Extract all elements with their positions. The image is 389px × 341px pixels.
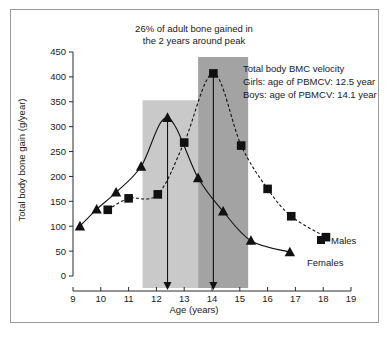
y-tick-label: 0 — [61, 270, 66, 281]
y-tick-label: 350 — [50, 96, 66, 107]
data-point-males — [103, 205, 112, 214]
x-tick-label: 9 — [70, 293, 75, 304]
x-tick-label: 11 — [124, 293, 134, 304]
males-series-label: Males — [331, 235, 357, 246]
annotation-line-2: Girls: age of PBMCV: 12.5 year — [243, 76, 375, 87]
girls-peak-band — [143, 100, 199, 288]
x-tick-label: 19 — [346, 293, 357, 304]
annotation-line-3: Boys: age of PBMCV: 14.1 year — [243, 89, 377, 100]
data-point-males — [263, 185, 272, 194]
boys-peak-band — [198, 57, 248, 288]
data-point-males — [124, 194, 133, 203]
data-point-males — [153, 190, 162, 199]
chart-title-line-1: 26% of adult bone gained in — [135, 23, 253, 34]
x-tick-label: 15 — [235, 293, 246, 304]
annotation-line-1: Total body BMC velocity — [243, 63, 345, 74]
x-axis-title: Age (years) — [169, 304, 218, 315]
x-tick-label: 14 — [207, 293, 218, 304]
x-tick-label: 10 — [96, 293, 107, 304]
x-tick-label: 17 — [290, 293, 301, 304]
y-tick-label: 400 — [50, 71, 66, 82]
data-point-males — [287, 212, 296, 221]
x-tick-label: 13 — [179, 293, 190, 304]
y-tick-label: 450 — [50, 46, 66, 57]
bone-gain-chart: 050100150200250300350400450 910111213141… — [11, 10, 378, 322]
data-point-males — [180, 138, 189, 147]
figure-panel: 050100150200250300350400450 910111213141… — [10, 9, 379, 323]
males-legend-marker — [317, 236, 325, 244]
y-axis-title: Total body bone gain (g/year) — [16, 98, 27, 221]
x-tick-label: 18 — [318, 293, 329, 304]
y-tick-label: 50 — [55, 246, 66, 257]
y-tick-label: 300 — [50, 121, 66, 132]
females-series-label: Females — [307, 257, 344, 268]
x-tick-label: 12 — [151, 293, 162, 304]
x-tick-label: 16 — [262, 293, 273, 304]
y-tick-label: 100 — [50, 221, 66, 232]
y-tick-label: 200 — [50, 171, 66, 182]
chart-title-line-2: the 2 years around peak — [143, 35, 246, 46]
data-point-males — [237, 141, 246, 150]
y-tick-label: 250 — [50, 146, 66, 157]
y-tick-label: 150 — [50, 196, 66, 207]
